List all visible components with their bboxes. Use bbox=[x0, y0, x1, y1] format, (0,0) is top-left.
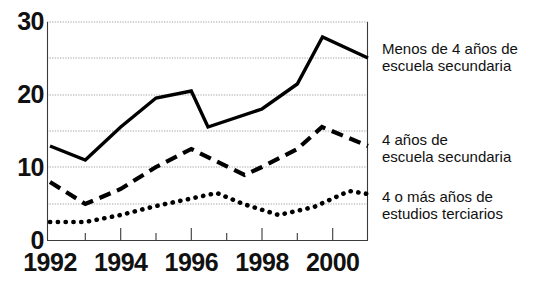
legend-entry-terciarios-line1: 4 o más años de bbox=[382, 188, 548, 205]
legend-entry-cuatro-anos-line2: escuela secundaria bbox=[382, 148, 548, 165]
chart-figure: 30 20 10 0 1992 1994 1996 1998 2000 Meno… bbox=[0, 0, 548, 297]
ytick-label-30: 30 bbox=[2, 9, 44, 34]
ytick-label-10: 10 bbox=[2, 155, 44, 180]
xtick-label-2000: 2000 bbox=[306, 250, 360, 275]
legend-entry-terciarios-line2: estudios terciarios bbox=[382, 205, 548, 222]
xtick-label-1996: 1996 bbox=[164, 250, 218, 275]
ytick-label-20: 20 bbox=[2, 82, 44, 107]
xtick-label-1992: 1992 bbox=[23, 250, 77, 275]
legend-entry-cuatro-anos: 4 años de escuela secundaria bbox=[382, 131, 548, 165]
x-axis-labels: 1992 1994 1996 1998 2000 bbox=[0, 250, 380, 290]
legend-entry-menos-cuatro-line1: Menos de 4 años de bbox=[382, 40, 548, 57]
xtick-label-1998: 1998 bbox=[235, 250, 289, 275]
chart-legend: Menos de 4 años de escuela secundaria 4 … bbox=[382, 0, 548, 297]
legend-entry-cuatro-anos-line1: 4 años de bbox=[382, 131, 548, 148]
legend-entry-menos-cuatro-line2: escuela secundaria bbox=[382, 57, 548, 74]
x-axis-ticks bbox=[85, 228, 332, 240]
xtick-label-1994: 1994 bbox=[94, 250, 148, 275]
series-line-terciarios bbox=[50, 191, 368, 222]
gridlines bbox=[47, 22, 368, 204]
series-line-cuatro-anos bbox=[50, 127, 368, 204]
legend-entry-terciarios: 4 o más años de estudios terciarios bbox=[382, 188, 548, 222]
plot-area: 30 20 10 0 1992 1994 1996 1998 2000 bbox=[0, 0, 380, 297]
legend-entry-menos-cuatro: Menos de 4 años de escuela secundaria bbox=[382, 40, 548, 74]
series-line-menos-cuatro bbox=[50, 37, 368, 160]
